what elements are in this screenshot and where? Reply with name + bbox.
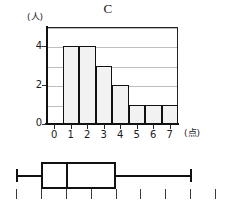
bar-bin-5-6 [145,105,162,124]
x-tick-label-3: 3 [98,129,110,140]
bar-bin-0-1 [63,46,80,124]
x-tick-label-6: 6 [147,129,159,140]
y-tick-label-4: 4 [28,41,42,51]
histogram-chart: C (人) (点) 4 2 [0,0,227,146]
x-tick-label-5: 5 [131,129,143,140]
x-tick-label-0: 0 [48,129,60,140]
chart-title: C [88,2,128,16]
bar-bin-4-5 [129,105,146,124]
number-line-tick-8 [215,189,216,199]
bar-bin-6-7 [162,105,179,124]
boxplot-median-line [66,162,68,189]
x-axis-line [45,123,179,125]
boxplot-box [41,162,116,189]
x-axis-unit-label: (点) [184,128,200,138]
number-line-tick-4 [116,189,117,199]
x-tick-label-4: 4 [114,129,126,140]
number-line-tick-0 [16,189,17,199]
y-tick-label-2: 2 [28,80,42,90]
boxplot-chart [0,146,227,201]
figure-container: C (人) (点) 4 2 [0,0,227,201]
y-tick-mark-2 [42,85,46,86]
x-tick-label-1: 1 [65,129,77,140]
number-line-tick-2 [66,189,67,199]
x-tick-label-7: 7 [164,129,176,140]
boxplot-number-line [0,187,227,201]
bar-bin-1-2 [79,46,96,124]
y-tick-mark-4 [42,46,46,47]
y-tick-label-0: 0 [28,118,42,128]
y-axis-line [46,26,48,125]
bar-group [46,27,178,124]
x-tick-label-2: 2 [81,129,93,140]
bar-bin-3-4 [112,85,129,124]
bar-bin-2-3 [96,66,113,124]
y-tick-label-group: 4 2 0 [26,0,42,146]
number-line-tick-3 [91,189,92,199]
number-line-tick-6 [165,189,166,199]
boxplot-max-cap [190,169,192,182]
number-line-tick-7 [190,189,191,199]
boxplot-min-cap [16,169,18,182]
y-tick-mark-0 [42,124,46,125]
number-line-tick-1 [41,189,42,199]
number-line-tick-5 [140,189,141,199]
